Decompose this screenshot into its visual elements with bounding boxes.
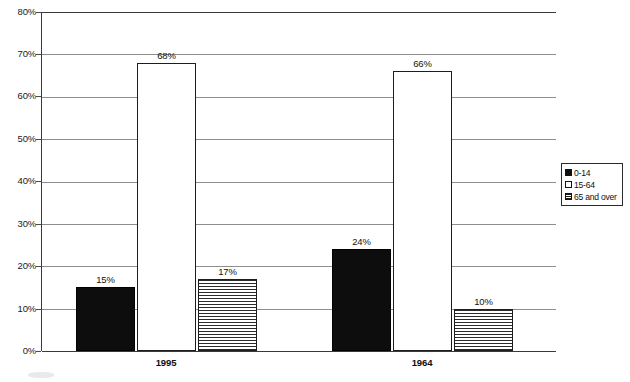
y-axis: 80% 70% 60% 50% 40% 30% 20% 10% 0% — [0, 0, 36, 382]
bar-1995-15-64[interactable]: 68% — [137, 63, 196, 351]
legend-item-label: 15-64 — [574, 180, 595, 190]
bar-1995-65-and-over[interactable]: 17% — [198, 279, 257, 351]
y-axis-tick-label: 40% — [2, 176, 36, 186]
gridline-80 — [42, 12, 556, 13]
gridline-20 — [42, 266, 556, 267]
legend-item-15-64[interactable]: 15-64 — [565, 179, 620, 190]
x-axis-category-label-1995: 1995 — [156, 357, 177, 368]
legend-item-label: 0-14 — [574, 168, 590, 178]
bar-1964-15-64[interactable]: 66% — [393, 71, 452, 351]
y-axis-tick-label: 60% — [2, 91, 36, 101]
x-axis-baseline — [42, 351, 556, 352]
gridline-70 — [42, 54, 556, 55]
legend-item-label: 65 and over — [574, 192, 617, 202]
bar-1995-0-14[interactable]: 15% — [76, 287, 135, 351]
y-axis-tick-label: 50% — [2, 134, 36, 144]
legend-item-0-14[interactable]: 0-14 — [565, 167, 620, 178]
gridline-50 — [42, 139, 556, 140]
y-axis-tick-mark — [36, 351, 41, 352]
y-axis-tick-label: 80% — [2, 7, 36, 17]
y-axis-tick-label: 70% — [2, 49, 36, 59]
legend-swatch-solid-icon — [565, 169, 572, 176]
gridline-60 — [42, 97, 556, 98]
bar-value-label: 68% — [157, 50, 176, 61]
bar-1964-0-14[interactable]: 24% — [332, 249, 391, 351]
x-axis-category-label-1964: 1964 — [412, 357, 433, 368]
legend: 0-14 15-64 65 and over — [561, 163, 623, 206]
legend-swatch-hatch-icon — [565, 193, 572, 200]
bar-1964-65-and-over[interactable]: 10% — [454, 309, 513, 351]
legend-swatch-open-icon — [565, 181, 572, 188]
legend-item-65-and-over[interactable]: 65 and over — [565, 191, 620, 202]
bar-value-label: 24% — [352, 236, 371, 247]
bar-value-label: 15% — [96, 274, 115, 285]
bar-value-label: 17% — [218, 266, 237, 277]
gridline-40 — [42, 182, 556, 183]
gridline-30 — [42, 224, 556, 225]
y-axis-tick-label: 20% — [2, 261, 36, 271]
plot-area: 15% 68% 17% 24% 66% 10% — [41, 12, 556, 351]
bar-value-label: 66% — [413, 58, 432, 69]
scan-artifact — [28, 372, 54, 378]
y-axis-tick-label: 10% — [2, 304, 36, 314]
y-axis-tick-label: 30% — [2, 219, 36, 229]
bar-value-label: 10% — [474, 296, 493, 307]
bar-chart: 80% 70% 60% 50% 40% 30% 20% 10% 0% 15% — [0, 0, 630, 382]
y-axis-tick-label: 0% — [2, 346, 36, 356]
